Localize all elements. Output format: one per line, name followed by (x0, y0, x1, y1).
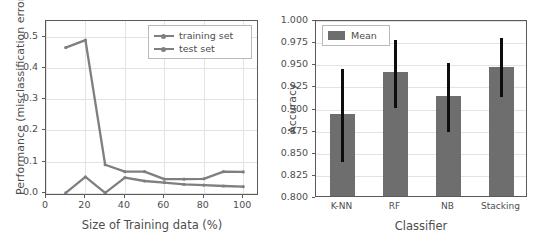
left-y-tick-label: 0.2 (0, 123, 38, 134)
error-bar-nb (447, 63, 449, 133)
error-bar-k-nn (341, 69, 343, 162)
left-x-tick-label: 0 (25, 199, 65, 210)
line-swatch-icon (154, 48, 174, 50)
tick-mark (312, 86, 315, 87)
data-point (202, 177, 205, 180)
panel-learning-curve: Performance (misclassification error) 0.… (0, 0, 272, 243)
data-point (143, 179, 146, 182)
right-y-tick-label: 0.925 (272, 80, 308, 91)
data-point (64, 191, 67, 194)
left-x-tick-label: 20 (64, 199, 104, 210)
tick-mark (312, 20, 315, 21)
right-y-tick-label: 0.850 (272, 147, 308, 158)
series-line-training-set (66, 177, 244, 193)
left-y-tick-label: 0.4 (0, 61, 38, 72)
legend-item-training-set: training set (154, 29, 246, 42)
data-point (182, 183, 185, 186)
bar-swatch-icon (328, 31, 345, 40)
data-point (163, 181, 166, 184)
right-x-tick-label: Stacking (471, 201, 531, 211)
right-y-tick-label: 1.000 (272, 14, 308, 25)
tick-mark (312, 175, 315, 176)
data-point (222, 170, 225, 173)
left-x-tick-label: 40 (104, 199, 144, 210)
right-y-tick-label: 0.800 (272, 191, 308, 202)
line-swatch-icon (154, 35, 174, 37)
data-point (104, 163, 107, 166)
data-point (242, 170, 245, 173)
data-point (242, 185, 245, 188)
left-x-tick-label: 60 (143, 199, 183, 210)
right-y-tick-label: 0.825 (272, 169, 308, 180)
figure-dual-panel: Performance (misclassification error) 0.… (0, 0, 545, 243)
tick-mark (312, 197, 315, 198)
data-point (84, 38, 87, 41)
legend-item-mean: Mean (328, 29, 384, 42)
data-point (202, 183, 205, 186)
data-point (84, 175, 87, 178)
data-point (143, 170, 146, 173)
left-x-tick-label: 100 (222, 199, 262, 210)
data-point (64, 46, 67, 49)
legend-label-test-set: test set (179, 43, 215, 54)
legend-label-training-set: training set (179, 30, 233, 41)
legend-item-test-set: test set (154, 42, 246, 55)
tick-mark (42, 36, 45, 37)
left-x-axis-title: Size of Training data (%) (82, 218, 223, 232)
data-point (163, 178, 166, 181)
left-y-tick-label: 0.3 (0, 92, 38, 103)
right-x-tick-label: RF (365, 201, 425, 211)
data-point (222, 184, 225, 187)
tick-mark (312, 153, 315, 154)
right-x-tick-label: NB (418, 201, 478, 211)
right-legend: Mean (322, 25, 390, 46)
left-y-tick-label: 0.5 (0, 30, 38, 41)
right-y-tick-label: 0.975 (272, 36, 308, 47)
tick-mark (42, 129, 45, 130)
left-x-tick-label: 80 (183, 199, 223, 210)
left-legend: training set test set (148, 25, 252, 59)
tick-mark (312, 42, 315, 43)
left-y-tick-label: 0.1 (0, 155, 38, 166)
legend-label-mean: Mean (351, 30, 377, 41)
error-bar-stacking (500, 38, 502, 97)
right-y-tick-label: 0.900 (272, 103, 308, 114)
right-y-tick-label: 0.950 (272, 58, 308, 69)
right-plot-area (315, 20, 527, 197)
tick-mark (242, 195, 243, 198)
tick-mark (312, 109, 315, 110)
right-x-tick-label: K-NN (312, 201, 372, 211)
tick-mark (312, 64, 315, 65)
tick-mark (42, 192, 45, 193)
tick-mark (84, 195, 85, 198)
error-bar-rf (394, 40, 396, 108)
left-y-axis-title: Performance (misclassification error) (14, 20, 27, 195)
right-x-axis-title: Classifier (395, 219, 448, 233)
tick-mark (42, 161, 45, 162)
tick-mark (42, 67, 45, 68)
tick-mark (124, 195, 125, 198)
left-y-tick-label: 0.0 (0, 186, 38, 197)
data-point (182, 178, 185, 181)
panel-accuracy-bars: Accuracy 0.8000.8250.8500.8750.9000.9250… (272, 0, 545, 243)
tick-mark (312, 131, 315, 132)
data-point (123, 170, 126, 173)
data-point (123, 176, 126, 179)
tick-mark (203, 195, 204, 198)
gridline-horizontal (316, 21, 526, 22)
tick-mark (42, 98, 45, 99)
data-point (104, 191, 107, 194)
tick-mark (45, 195, 46, 198)
series-line-test-set (66, 40, 244, 179)
tick-mark (163, 195, 164, 198)
right-y-tick-label: 0.875 (272, 125, 308, 136)
